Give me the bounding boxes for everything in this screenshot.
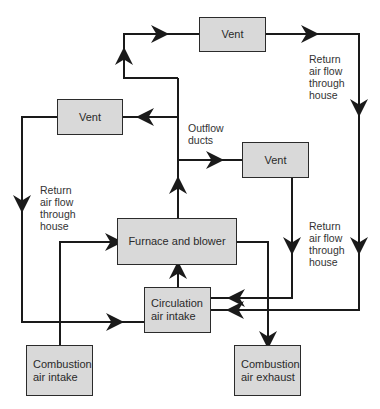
- return-label-left: Return air flow through house: [40, 184, 76, 232]
- circulation-air-intake: Circulation air intake: [144, 287, 211, 333]
- combustion-air-intake: Combustion air intake: [26, 345, 93, 396]
- furnace-and-blower: Furnace and blower: [117, 218, 237, 265]
- vent-left-label: Vent: [79, 111, 101, 124]
- outflow-ducts-label: Outflow ducts: [188, 122, 224, 146]
- vent-left: Vent: [57, 99, 123, 135]
- vent-top: Vent: [199, 17, 266, 52]
- vent-top-label: Vent: [221, 28, 243, 41]
- return-label-mid-right: Return air flow through house: [309, 220, 345, 268]
- vent-right: Vent: [242, 142, 309, 178]
- combustion-exhaust-label: Combustion air exhaust: [241, 358, 300, 384]
- return-label-top-right: Return air flow through house: [309, 53, 345, 101]
- circulation-label: Circulation air intake: [151, 297, 203, 323]
- combustion-air-exhaust: Combustion air exhaust: [234, 345, 301, 396]
- vent-right-label: Vent: [264, 154, 286, 167]
- furnace-label: Furnace and blower: [128, 235, 225, 248]
- combustion-intake-label: Combustion air intake: [33, 358, 92, 384]
